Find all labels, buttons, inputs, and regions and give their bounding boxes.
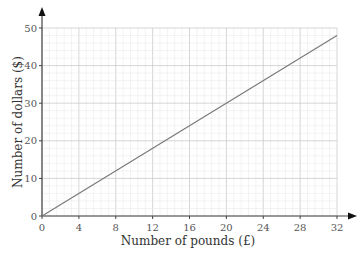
x-tick-label: 4	[76, 222, 82, 233]
x-tick-label: 0	[39, 222, 45, 233]
tick-labels: 04812162024283201020304050	[24, 23, 343, 234]
x-tick-label: 16	[183, 222, 196, 233]
grid	[42, 28, 337, 216]
y-axis-arrow-icon	[39, 7, 46, 16]
y-tick-label: 40	[24, 60, 37, 71]
x-tick-label: 28	[294, 222, 307, 233]
y-tick-label: 0	[31, 211, 37, 222]
y-tick-label: 50	[24, 23, 37, 34]
y-tick-label: 20	[24, 135, 37, 146]
conversion-graph: 04812162024283201020304050 Number of pou…	[0, 0, 360, 262]
x-tick-label: 20	[220, 222, 233, 233]
y-axis-title: Number of dollars ($)	[11, 56, 25, 188]
x-tick-label: 32	[331, 222, 344, 233]
x-tick-label: 24	[257, 222, 270, 233]
y-tick-label: 30	[24, 98, 37, 109]
x-axis-title: Number of pounds (£)	[121, 234, 255, 248]
x-axis-arrow-icon	[348, 213, 357, 220]
x-tick-label: 8	[113, 222, 119, 233]
y-tick-label: 10	[24, 173, 37, 184]
x-tick-label: 12	[146, 222, 159, 233]
